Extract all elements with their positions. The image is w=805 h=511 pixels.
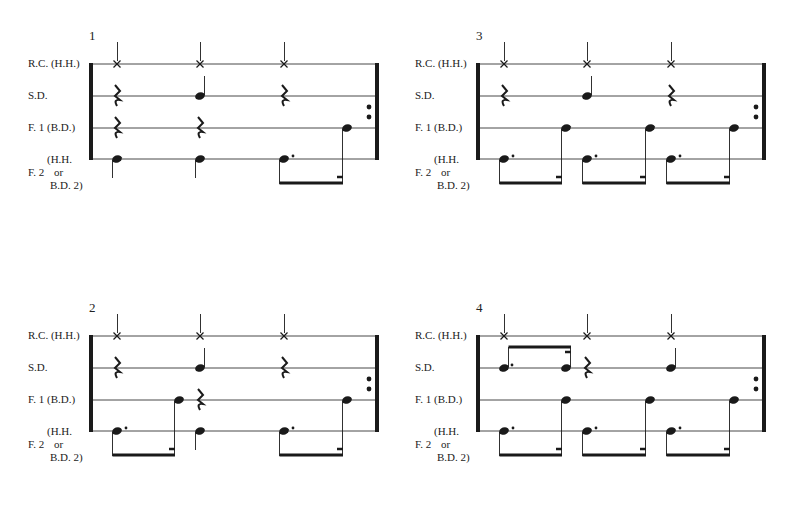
quarter-rest-icon — [282, 357, 287, 378]
augmentation-dot-icon — [292, 427, 295, 430]
quarter-rest-icon — [198, 117, 203, 138]
augmentation-dot-icon — [754, 377, 759, 382]
augmentation-dot-icon — [511, 364, 514, 367]
augmentation-dot-icon — [512, 427, 515, 430]
augmentation-dot-icon — [367, 105, 372, 110]
quarter-rest-icon — [585, 357, 590, 378]
quarter-rest-icon — [282, 85, 287, 106]
quarter-rest-icon — [115, 117, 120, 138]
augmentation-dot-icon — [595, 427, 598, 430]
augmentation-dot-icon — [367, 387, 372, 392]
quarter-rest-icon — [502, 85, 507, 106]
augmentation-dot-icon — [292, 155, 295, 158]
quarter-rest-icon — [115, 85, 120, 106]
augmentation-dot-icon — [754, 105, 759, 110]
augmentation-dot-icon — [512, 155, 515, 158]
augmentation-dot-icon — [367, 115, 372, 120]
augmentation-dot-icon — [754, 387, 759, 392]
augmentation-dot-icon — [679, 427, 682, 430]
augmentation-dot-icon — [125, 427, 128, 430]
notation-canvas — [0, 0, 805, 511]
quarter-rest-icon — [198, 389, 203, 410]
quarter-rest-icon — [115, 357, 120, 378]
augmentation-dot-icon — [754, 115, 759, 120]
augmentation-dot-icon — [367, 377, 372, 382]
quarter-rest-icon — [669, 85, 674, 106]
augmentation-dot-icon — [595, 155, 598, 158]
augmentation-dot-icon — [679, 155, 682, 158]
